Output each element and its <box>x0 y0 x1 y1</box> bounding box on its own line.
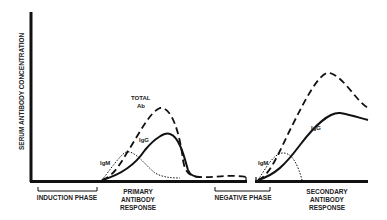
total-ab-primary-curve <box>102 108 246 180</box>
igg-primary-curve <box>102 134 200 180</box>
igm-label-secondary: IgM <box>258 160 268 166</box>
igm-secondary-curve <box>258 153 302 180</box>
total-ab-label-1: TOTAL <box>131 95 151 101</box>
secondary-label-1: SECONDARY <box>306 188 348 195</box>
igg-label-primary: IgG <box>139 137 149 143</box>
negative-phase-label: NEGATIVE PHASE <box>215 194 273 201</box>
primary-label-3: RESPONSE <box>120 204 157 211</box>
secondary-label-3: RESPONSE <box>309 204 346 211</box>
total-ab-label-2: Ab <box>137 103 145 109</box>
primary-label-1: PRIMARY <box>123 188 153 195</box>
y-axis-label: SERUM ANTIBODY CONCENTRATION <box>18 32 25 150</box>
induction-bracket <box>38 187 97 191</box>
secondary-label-2: ANTIBODY <box>310 196 345 203</box>
antibody-response-diagram: SERUM ANTIBODY CONCENTRATION TOTAL Ab Ig… <box>0 0 387 220</box>
primary-label-2: ANTIBODY <box>121 196 156 203</box>
igg-secondary-curve <box>258 113 368 180</box>
negative-bracket <box>215 187 270 191</box>
igm-label-primary: IgM <box>100 160 110 166</box>
igg-label-secondary: IgG <box>311 125 321 131</box>
induction-phase-label: INDUCTION PHASE <box>37 194 98 201</box>
